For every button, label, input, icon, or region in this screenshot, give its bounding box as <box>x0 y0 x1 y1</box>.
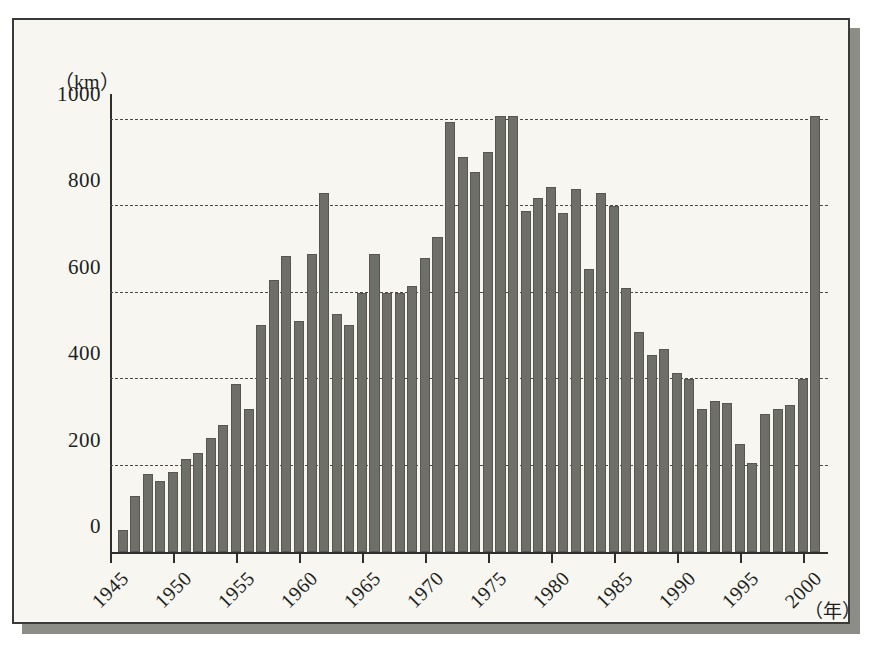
gridline <box>110 205 828 206</box>
x-tick-label: 1990 <box>654 567 700 613</box>
bar <box>621 288 631 552</box>
bar <box>546 187 556 552</box>
bar <box>747 463 757 552</box>
bar <box>659 349 669 552</box>
bar <box>483 152 493 552</box>
x-tick <box>236 552 238 563</box>
y-tick-label: 200 <box>68 428 101 453</box>
bar <box>432 237 442 552</box>
bar <box>307 254 317 552</box>
bar <box>130 496 140 552</box>
x-tick <box>173 552 175 563</box>
figure-frame: （km） 02004006008001000 19451950195519601… <box>12 18 850 624</box>
bar <box>773 409 783 552</box>
bar <box>495 116 505 552</box>
bar <box>697 409 707 552</box>
x-tick <box>110 552 112 563</box>
bar <box>244 409 254 552</box>
bar <box>760 414 770 552</box>
bar <box>118 530 128 552</box>
bar <box>810 116 820 552</box>
bar <box>785 405 795 552</box>
bar <box>722 403 732 552</box>
bar <box>256 325 266 552</box>
bar <box>181 459 191 552</box>
y-axis-line <box>110 94 112 552</box>
bar <box>420 258 430 552</box>
x-axis-line <box>110 552 828 554</box>
y-tick-label: 1000 <box>57 82 101 107</box>
x-tick <box>362 552 364 563</box>
x-tick-label: 1985 <box>591 567 637 613</box>
bar <box>218 425 228 552</box>
x-tick <box>488 552 490 563</box>
bar <box>231 384 241 553</box>
x-tick-label: 1960 <box>276 567 322 613</box>
y-tick-label: 600 <box>68 255 101 280</box>
x-tick-label: 1975 <box>465 567 511 613</box>
bar <box>596 193 606 552</box>
bar <box>470 172 480 552</box>
x-tick-label: 1980 <box>528 567 574 613</box>
y-tick-label: 0 <box>90 514 101 539</box>
gridline <box>110 378 828 379</box>
bar <box>382 293 392 552</box>
x-tick <box>425 552 427 563</box>
x-axis-unit-label: （年） <box>804 596 861 623</box>
gridline <box>110 119 828 120</box>
bar <box>206 438 216 553</box>
gridline <box>110 292 828 293</box>
bar <box>634 332 644 552</box>
bar <box>735 444 745 552</box>
y-tick-label: 800 <box>68 168 101 193</box>
y-tick-label: 400 <box>68 341 101 366</box>
bar <box>357 293 367 552</box>
x-tick-label: 1965 <box>339 567 385 613</box>
bar <box>584 269 594 552</box>
bar <box>344 325 354 552</box>
bar <box>281 256 291 552</box>
bar <box>294 321 304 552</box>
x-tick <box>677 552 679 563</box>
x-tick <box>551 552 553 563</box>
x-tick <box>740 552 742 563</box>
bar <box>319 193 329 552</box>
bar <box>647 355 657 552</box>
bar <box>168 472 178 552</box>
x-tick-label: 1955 <box>213 567 259 613</box>
bar <box>710 401 720 552</box>
bar <box>533 198 543 552</box>
bar <box>684 379 694 552</box>
x-tick-label: 1945 <box>87 567 133 613</box>
x-tick <box>299 552 301 563</box>
bar <box>143 474 153 552</box>
bar <box>445 122 455 552</box>
bar <box>332 314 342 552</box>
bar <box>609 206 619 552</box>
bar <box>155 481 165 552</box>
bar <box>571 189 581 552</box>
bar <box>269 280 279 552</box>
x-tick <box>803 552 805 563</box>
bar <box>798 379 808 552</box>
bar <box>369 254 379 552</box>
bar <box>672 373 682 552</box>
bar <box>458 157 468 552</box>
bar-chart-plot-area: 02004006008001000 1945195019551960196519… <box>110 94 828 552</box>
x-tick-label: 1950 <box>150 567 196 613</box>
x-tick <box>614 552 616 563</box>
bar <box>508 116 518 552</box>
x-tick-label: 1970 <box>402 567 448 613</box>
bar <box>395 293 405 552</box>
bar <box>521 211 531 552</box>
bar <box>407 286 417 552</box>
bar <box>558 213 568 552</box>
bar <box>193 453 203 552</box>
x-tick-label: 1995 <box>717 567 763 613</box>
plot-inner: 02004006008001000 1945195019551960196519… <box>110 94 828 552</box>
